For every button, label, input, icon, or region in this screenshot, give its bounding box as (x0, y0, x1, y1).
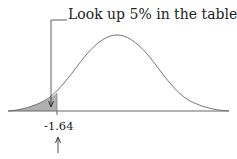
shaded-tail-region (8, 93, 57, 111)
callout-leader-line (51, 20, 67, 106)
normal-distribution-diagram (0, 0, 237, 159)
callout-label: Look up 5% in the table... (68, 6, 237, 22)
critical-value-label: -1.64 (44, 119, 74, 133)
normal-curve (8, 35, 229, 111)
